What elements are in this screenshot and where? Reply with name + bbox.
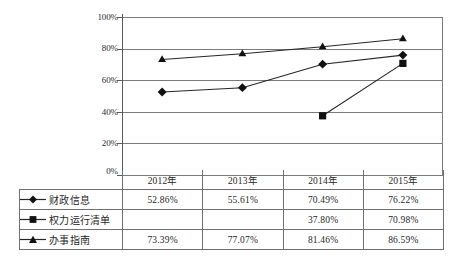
legend-label-banshizhinan: 办事指南 [49,232,90,247]
value-quanliyunxingqingdan-2015: 70.98% [363,210,443,230]
table-row: 权力运行清单 37.80% 70.98% [20,210,444,230]
table-row: 办事指南 73.39% 77.07% 81.46% 86.59% [20,230,444,250]
value-caizhengxinxi-2013: 55.61% [203,190,283,210]
table-header-year-2015: 2015年 [363,170,443,190]
data-table: 2012年 2013年 2014年 2015年 财政信息 52.86% 5 [19,170,444,250]
value-banshizhinan-2014: 81.46% [283,230,363,250]
value-banshizhinan-2013: 77.07% [203,230,283,250]
series-markers-banshizhinan [158,35,407,63]
chart-figure: 100% 80% 60% 40% 20% 0% [0,0,461,266]
value-banshizhinan-2012: 73.39% [123,230,203,250]
value-quanliyunxingqingdan-2013 [203,210,283,230]
legend-label-quanliyunxingqingdan: 权力运行清单 [49,212,111,227]
value-caizhengxinxi-2012: 52.86% [123,190,203,210]
value-banshizhinan-2015: 86.59% [363,230,443,250]
legend-label-caizhengxinxi: 财政信息 [49,192,90,207]
table-header-year-2013: 2013年 [203,170,283,190]
triangle-marker-icon [20,234,46,245]
table-header-row: 2012年 2013年 2014年 2015年 [20,170,444,190]
table-header-legend-blank [20,170,123,190]
chart-plot-svg [0,0,461,186]
legend-item-quanliyunxingqingdan: 权力运行清单 [20,210,123,230]
series-line-quanliyunxingqingdan [323,63,403,115]
value-quanliyunxingqingdan-2014: 37.80% [283,210,363,230]
table-header-year-2014: 2014年 [283,170,363,190]
legend-item-banshizhinan: 办事指南 [20,230,123,250]
legend-item-caizhengxinxi: 财政信息 [20,190,123,210]
table-header-year-2012: 2012年 [123,170,203,190]
gridlines [122,18,443,176]
diamond-marker-icon [20,194,46,205]
value-quanliyunxingqingdan-2012 [123,210,203,230]
square-marker-icon [20,214,46,225]
value-caizhengxinxi-2015: 76.22% [363,190,443,210]
line-chart: 100% 80% 60% 40% 20% 0% [0,0,461,186]
table-row: 财政信息 52.86% 55.61% 70.49% 76.22% [20,190,444,210]
y-axis-ticks [117,18,122,176]
value-caizhengxinxi-2014: 70.49% [283,190,363,210]
